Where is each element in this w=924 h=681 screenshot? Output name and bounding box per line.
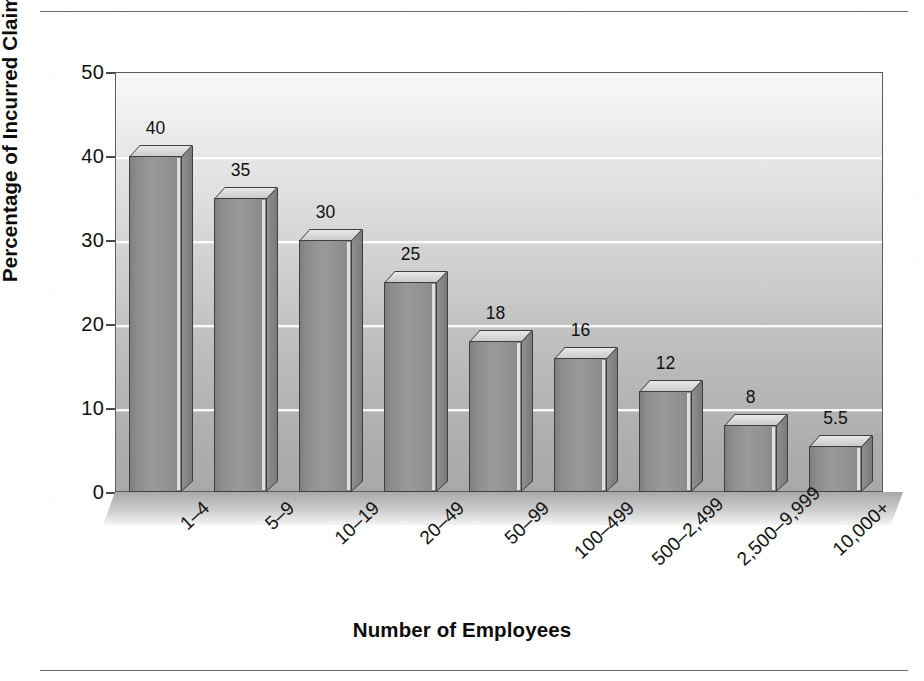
bar-value-label: 8 bbox=[746, 387, 756, 408]
bar-front-face bbox=[384, 282, 437, 492]
y-tick-mark-40 bbox=[106, 156, 115, 158]
bar-front-face bbox=[299, 240, 352, 492]
bar-front-face bbox=[809, 446, 862, 492]
bar-value-label: 30 bbox=[316, 202, 335, 223]
x-tick-label-50-99: 50–99 bbox=[478, 497, 554, 570]
bar-side-face bbox=[351, 229, 363, 492]
bar-front-face bbox=[724, 425, 777, 492]
bar-side-face bbox=[181, 145, 193, 492]
bar-front-face bbox=[469, 341, 522, 492]
y-tick-mark-10 bbox=[106, 408, 115, 410]
bar-10-19[interactable]: 30 bbox=[299, 240, 352, 492]
y-tick-mark-0 bbox=[106, 492, 115, 494]
x-tick-label-500-2499: 500–2,499 bbox=[648, 497, 724, 570]
bar-side-face bbox=[691, 380, 703, 492]
y-tick-label-40: 40 bbox=[60, 145, 104, 168]
bar-value-label: 5.5 bbox=[823, 408, 847, 429]
bar-2500-9999[interactable]: 8 bbox=[724, 425, 777, 492]
y-axis-title: Percentage of Incurred Claims bbox=[0, 0, 22, 282]
y-tick-mark-50 bbox=[106, 72, 115, 74]
x-tick-label-1-4: 1–4 bbox=[138, 497, 214, 570]
bar-value-label: 18 bbox=[486, 303, 505, 324]
x-axis-title: Number of Employees bbox=[0, 618, 924, 642]
x-tick-label-5-9: 5–9 bbox=[223, 497, 299, 570]
x-tick-label-100-499: 100–499 bbox=[563, 497, 639, 570]
y-tick-label-30: 30 bbox=[60, 229, 104, 252]
x-tick-label-10000-plus: 10,000+ bbox=[818, 497, 894, 570]
bar-value-label: 35 bbox=[231, 160, 250, 181]
bar-value-label: 25 bbox=[401, 244, 420, 265]
bar-front-face bbox=[554, 358, 607, 492]
bar-50-99[interactable]: 18 bbox=[469, 341, 522, 492]
bar-side-face bbox=[606, 347, 618, 492]
bar-value-label: 12 bbox=[656, 353, 675, 374]
bar-front-face bbox=[639, 391, 692, 492]
y-tick-label-50: 50 bbox=[60, 61, 104, 84]
y-tick-label-20: 20 bbox=[60, 313, 104, 336]
bar-500-2499[interactable]: 12 bbox=[639, 391, 692, 492]
bar-front-face bbox=[214, 198, 267, 492]
y-tick-label-10: 10 bbox=[60, 397, 104, 420]
x-tick-label-10-19: 10–19 bbox=[308, 497, 384, 570]
bar-side-face bbox=[436, 271, 448, 492]
bar-100-499[interactable]: 16 bbox=[554, 358, 607, 492]
bar-1-4[interactable]: 40 bbox=[129, 156, 182, 492]
x-axis-tick-labels: 1–4 5–9 10–19 20–49 50–99 100–499 500–2,… bbox=[115, 497, 905, 607]
bar-value-label: 40 bbox=[146, 118, 165, 139]
y-tick-mark-30 bbox=[106, 240, 115, 242]
bar-side-face bbox=[776, 414, 788, 492]
bar-side-face bbox=[266, 187, 278, 492]
x-tick-label-2500-9999: 2,500–9,999 bbox=[733, 497, 809, 570]
bar-front-face bbox=[129, 156, 182, 492]
x-tick-label-20-49: 20–49 bbox=[393, 497, 469, 570]
y-axis-tick-labels: 0 10 20 30 40 50 bbox=[60, 72, 104, 492]
bar-10000-plus[interactable]: 5.5 bbox=[809, 446, 862, 492]
bar-5-9[interactable]: 35 bbox=[214, 198, 267, 492]
bar-side-face bbox=[521, 330, 533, 492]
bar-chart-figure: Percentage of Incurred Claims 0 10 20 30… bbox=[0, 0, 924, 681]
y-tick-label-0: 0 bbox=[60, 481, 104, 504]
bar-value-label: 16 bbox=[571, 320, 590, 341]
bar-20-49[interactable]: 25 bbox=[384, 282, 437, 492]
bar-series: 40 35 30 25 18 bbox=[115, 72, 883, 492]
y-tick-mark-20 bbox=[106, 324, 115, 326]
